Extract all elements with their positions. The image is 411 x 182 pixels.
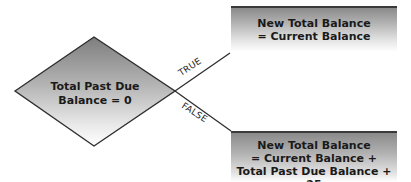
true-outcome-line1: New Total Balance [257, 17, 370, 30]
true-outcome-line2: = Current Balance [258, 30, 371, 43]
false-outcome-line1: New Total Balance [257, 139, 370, 152]
decision-label-line2: Balance = 0 [40, 94, 150, 108]
true-outcome-box: New Total Balance = Current Balance [231, 6, 397, 52]
decision-label: Total Past Due Balance = 0 [40, 80, 150, 108]
false-outcome-box: New Total Balance = Current Balance + To… [231, 131, 397, 182]
false-outcome-line2: = Current Balance + [251, 152, 377, 165]
false-outcome-line3: Total Past Due Balance + 25 [231, 165, 397, 182]
decision-label-line1: Total Past Due [40, 80, 150, 94]
